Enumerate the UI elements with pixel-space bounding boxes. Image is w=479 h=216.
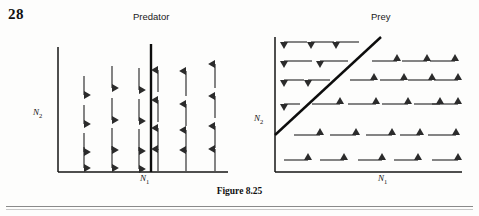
predator-y-axis-label: N2 — [33, 107, 42, 119]
prey-left-vectors — [284, 42, 359, 104]
figure-caption: Figure 8.25 — [0, 186, 479, 196]
predator-down-vectors — [84, 66, 139, 169]
footer-rule — [6, 206, 473, 207]
predator-phase-plane — [0, 0, 479, 216]
prey-right-vectors — [284, 61, 458, 160]
prey-x-axis-label: N1 — [378, 173, 387, 185]
book-page: 28 Predator Prey — [0, 0, 479, 216]
prey-y-axis-label: N2 — [254, 113, 263, 125]
prey-isocline — [275, 37, 381, 135]
predator-up-vectors — [158, 64, 215, 171]
predator-x-axis-label: N1 — [140, 173, 149, 185]
footer-rule-secondary — [6, 209, 473, 210]
